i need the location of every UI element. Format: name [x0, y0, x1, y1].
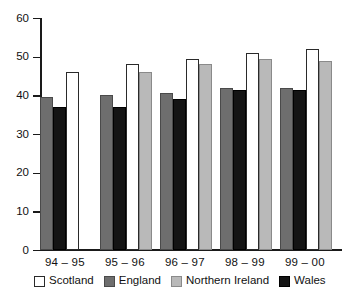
- bar-scotland: [126, 64, 139, 250]
- x-axis-category-labels: 94 – 9595 – 9696 – 9798 – 9999 – 00: [40, 253, 340, 271]
- legend-swatch-icon: [34, 276, 45, 287]
- chart-legend: ScotlandEnglandNorthern IrelandWales: [34, 272, 350, 290]
- bar-slot: [186, 18, 199, 250]
- bar-northern-ireland: [139, 72, 152, 250]
- y-axis-tick-label: 10: [16, 206, 29, 218]
- legend-swatch-icon: [104, 276, 115, 287]
- bar-slot: [220, 18, 233, 250]
- category-label: 96 – 97: [160, 253, 220, 271]
- y-axis-tick: 10: [33, 211, 40, 212]
- bar-slot: [126, 18, 139, 250]
- legend-item-northern-ireland[interactable]: Northern Ireland: [171, 275, 269, 287]
- bar-slot: [100, 18, 113, 250]
- bar-england: [280, 88, 293, 250]
- bar-slot: [160, 18, 173, 250]
- y-axis-tick: 50: [33, 57, 40, 58]
- bar-slot: [79, 18, 92, 250]
- y-axis-tick-label: 20: [16, 168, 29, 180]
- bar-northern-ireland: [199, 64, 212, 250]
- bar-slot: [139, 18, 152, 250]
- category-label: 99 – 00: [280, 253, 340, 271]
- bar-chart: 0102030405060 94 – 9595 – 9696 – 9798 – …: [0, 0, 352, 296]
- plot-area: 0102030405060: [40, 18, 340, 250]
- legend-swatch-icon: [171, 276, 182, 287]
- bar-group: [280, 18, 340, 250]
- y-axis-tick: 20: [33, 173, 40, 174]
- bar-northern-ireland: [319, 61, 332, 250]
- bar-slot: [306, 18, 319, 250]
- bar-slot: [293, 18, 306, 250]
- bar-slot: [53, 18, 66, 250]
- bar-scotland: [186, 59, 199, 250]
- y-axis-tick-label: 40: [16, 90, 29, 102]
- bar-scotland: [246, 53, 259, 250]
- category-label: 95 – 96: [100, 253, 160, 271]
- y-axis-tick-label: 0: [23, 245, 29, 257]
- legend-label: England: [119, 275, 161, 287]
- bar-wales: [173, 99, 186, 250]
- bar-group: [160, 18, 220, 250]
- legend-label: Scotland: [49, 275, 94, 287]
- bar-england: [160, 93, 173, 250]
- bar-wales: [53, 107, 66, 250]
- y-axis-tick: 30: [33, 134, 40, 135]
- legend-label: Wales: [294, 275, 326, 287]
- y-axis-tick: 0: [33, 250, 40, 251]
- category-label: 94 – 95: [40, 253, 100, 271]
- bar-scotland: [66, 72, 79, 250]
- bar-scotland: [306, 49, 319, 250]
- bar-slot: [233, 18, 246, 250]
- bar-wales: [293, 90, 306, 250]
- bar-slot: [199, 18, 212, 250]
- bar-northern-ireland: [259, 59, 272, 250]
- y-axis-tick-label: 50: [16, 52, 29, 64]
- bar-group: [100, 18, 160, 250]
- category-label: 98 – 99: [220, 253, 280, 271]
- bar-slot: [113, 18, 126, 250]
- legend-item-england[interactable]: England: [104, 275, 161, 287]
- bar-england: [40, 97, 53, 250]
- bar-slot: [280, 18, 293, 250]
- bar-slot: [259, 18, 272, 250]
- bar-group: [220, 18, 280, 250]
- bar-groups: [40, 18, 340, 250]
- y-axis-tick: 60: [33, 18, 40, 19]
- legend-item-scotland[interactable]: Scotland: [34, 275, 94, 287]
- bar-slot: [246, 18, 259, 250]
- bar-wales: [113, 107, 126, 250]
- bar-slot: [66, 18, 79, 250]
- legend-swatch-icon: [279, 276, 290, 287]
- legend-label: Northern Ireland: [186, 275, 269, 287]
- bar-slot: [173, 18, 186, 250]
- bar-slot: [40, 18, 53, 250]
- bar-group: [40, 18, 100, 250]
- bar-england: [100, 95, 113, 250]
- y-axis-tick-label: 60: [16, 13, 29, 25]
- bar-england: [220, 88, 233, 250]
- y-axis-tick: 40: [33, 95, 40, 96]
- bar-wales: [233, 90, 246, 250]
- legend-item-wales[interactable]: Wales: [279, 275, 326, 287]
- bar-slot: [319, 18, 332, 250]
- y-axis-tick-label: 30: [16, 129, 29, 141]
